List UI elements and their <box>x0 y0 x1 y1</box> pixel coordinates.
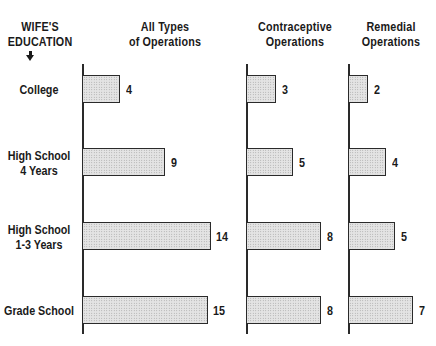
value-label: 8 <box>327 230 333 244</box>
row-label-high-school-4-years: High School 4 Years <box>2 149 76 179</box>
bar-remedial-high-school-1-3 <box>349 222 395 250</box>
value-label: 8 <box>327 304 333 318</box>
bar-remedial-college <box>349 75 368 103</box>
bar-remedial-grade-school <box>349 296 413 324</box>
row-label-line1: High School <box>2 149 76 164</box>
row-label-college: College <box>2 83 76 98</box>
column-header-line1: All Types <box>118 20 213 35</box>
bar-all-types-grade-school <box>83 296 208 324</box>
row-label-high-school-1-3-years: High School 1-3 Years <box>2 223 76 253</box>
column-header-all-types: All Types of Operations <box>118 20 213 50</box>
bar-remedial-high-school-4 <box>349 148 386 176</box>
bar-all-types-college <box>83 75 120 103</box>
axis-remedial <box>348 64 350 334</box>
value-label: 5 <box>299 156 305 170</box>
axis-all-types <box>82 64 84 334</box>
value-label: 5 <box>401 230 407 244</box>
row-header: WIFE'S EDUCATION <box>6 20 75 50</box>
column-header-line2: Operations <box>352 35 429 50</box>
bar-contraceptive-high-school-1-3 <box>247 222 321 250</box>
column-header-remedial: Remedial Operations <box>352 20 429 50</box>
value-label: 2 <box>374 83 380 97</box>
down-arrow-icon <box>26 55 34 61</box>
row-label-line1: High School <box>2 223 76 238</box>
column-header-line1: Remedial <box>352 20 429 35</box>
row-label-line2: 4 Years <box>2 164 76 179</box>
row-header-line1: WIFE'S <box>6 20 75 35</box>
row-label-line1: Grade School <box>2 304 76 319</box>
value-label: 9 <box>171 156 177 170</box>
bar-contraceptive-college <box>247 75 276 103</box>
column-header-line2: Operations <box>252 35 338 50</box>
value-label: 3 <box>282 83 288 97</box>
value-label: 4 <box>126 83 132 97</box>
row-label-line1: College <box>2 83 76 98</box>
value-label: 4 <box>392 156 398 170</box>
bar-all-types-high-school-4 <box>83 148 165 176</box>
bar-contraceptive-grade-school <box>247 296 321 324</box>
row-label-line2: 1-3 Years <box>2 238 76 253</box>
value-label: 15 <box>213 304 225 318</box>
column-header-line2: of Operations <box>118 35 213 50</box>
bar-contraceptive-high-school-4 <box>247 148 293 176</box>
column-header-line1: Contraceptive <box>252 20 338 35</box>
row-header-line2: EDUCATION <box>6 35 75 50</box>
value-label: 14 <box>216 230 228 244</box>
row-label-grade-school: Grade School <box>2 304 76 319</box>
axis-contraceptive <box>246 64 248 334</box>
column-header-contraceptive: Contraceptive Operations <box>252 20 338 50</box>
bar-all-types-high-school-1-3 <box>83 222 211 250</box>
value-label: 7 <box>419 304 425 318</box>
